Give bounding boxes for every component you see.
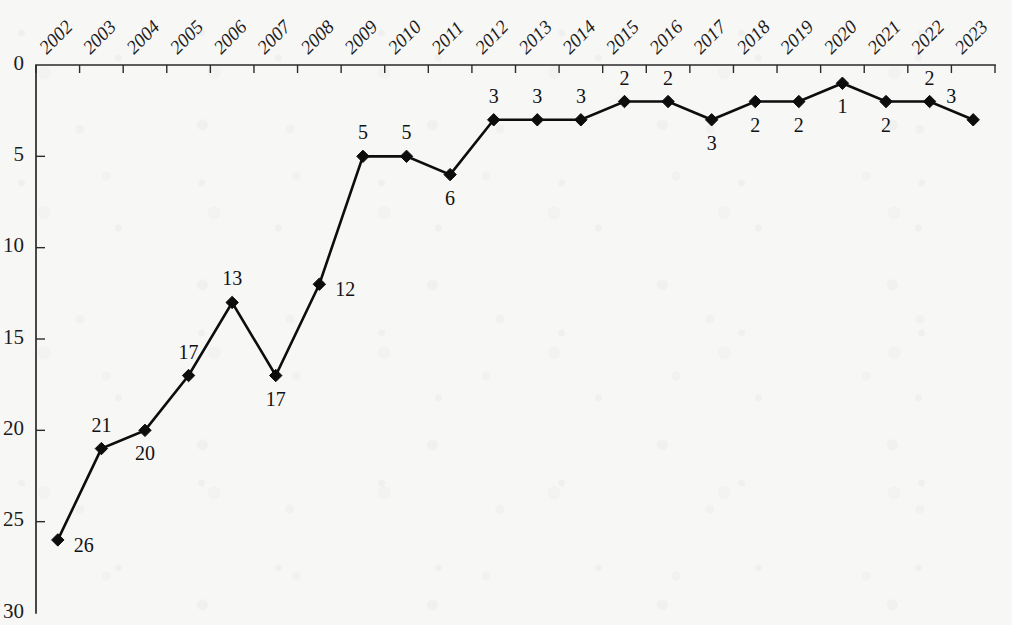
data-point-markers <box>52 77 980 546</box>
data-point-marker <box>662 95 674 107</box>
x-axis-tick-label: 2011 <box>427 17 468 58</box>
x-axis-tick-label: 2018 <box>732 16 774 58</box>
axis-frame <box>36 65 995 613</box>
data-point-value-label: 5 <box>358 121 368 143</box>
y-axis-tick-label: 30 <box>3 599 24 623</box>
data-point-value-labels: 26212017131712556333223221223 <box>74 67 956 556</box>
data-point-marker <box>52 534 64 546</box>
x-axis-tick-label: 2008 <box>296 16 338 58</box>
data-point-value-label: 17 <box>179 341 199 363</box>
x-axis-tick-label: 2023 <box>950 16 992 58</box>
data-point-marker <box>313 278 325 290</box>
x-axis-tick-label: 2007 <box>253 15 296 58</box>
data-point-value-label: 26 <box>74 534 94 556</box>
x-axis-tick-label: 2014 <box>558 16 600 58</box>
data-point-marker <box>705 114 717 126</box>
data-point-value-label: 5 <box>402 121 412 143</box>
x-axis-tick-label: 2009 <box>340 16 382 58</box>
data-point-marker <box>400 150 412 162</box>
x-axis-tick-label: 2002 <box>35 16 77 58</box>
data-point-value-label: 13 <box>222 267 242 289</box>
data-point-marker <box>575 114 587 126</box>
data-point-value-label: 3 <box>532 85 542 107</box>
x-axis-tick-label: 2005 <box>166 16 208 58</box>
x-axis-tick-label: 2003 <box>78 16 120 58</box>
data-point-value-label: 2 <box>663 67 673 89</box>
y-axis-tick-label: 5 <box>14 142 25 166</box>
data-point-value-label: 3 <box>946 85 956 107</box>
data-point-marker <box>793 95 805 107</box>
data-point-marker <box>618 95 630 107</box>
data-point-value-label: 3 <box>489 85 499 107</box>
data-point-marker <box>531 114 543 126</box>
data-point-value-label: 6 <box>445 187 455 209</box>
data-point-value-label: 3 <box>707 132 717 154</box>
x-axis-tick-label: 2022 <box>907 16 949 58</box>
y-axis-tick-label-group: 051015202530 <box>3 51 24 623</box>
x-axis-tick-label: 2006 <box>209 16 251 58</box>
data-point-marker <box>836 77 848 89</box>
data-point-marker <box>749 95 761 107</box>
x-axis-tick-label: 2004 <box>122 16 164 58</box>
data-point-value-label: 2 <box>794 114 804 136</box>
y-axis-tick-label: 25 <box>3 507 24 531</box>
x-axis-tick-label: 2020 <box>819 16 861 58</box>
data-point-marker <box>270 369 282 381</box>
x-axis-tick-marks <box>36 65 995 73</box>
x-axis-tick-label: 2021 <box>863 16 905 58</box>
y-axis-tick-marks <box>36 156 45 521</box>
data-point-value-label: 12 <box>335 278 355 300</box>
y-axis-tick-label: 0 <box>14 51 25 75</box>
data-point-marker <box>967 114 979 126</box>
data-point-value-label: 2 <box>925 67 935 89</box>
x-axis-tick-label: 2017 <box>689 15 732 58</box>
data-point-value-label: 1 <box>837 95 847 117</box>
data-point-marker <box>357 150 369 162</box>
x-axis-tick-label: 2019 <box>776 16 818 58</box>
x-axis-tick-label: 2016 <box>645 16 687 58</box>
data-point-value-label: 3 <box>576 85 586 107</box>
y-axis-tick-label: 15 <box>3 325 24 349</box>
data-point-value-label: 20 <box>135 442 155 464</box>
data-point-value-label: 21 <box>91 414 111 436</box>
x-axis-tick-label-group: 2002200320042005200620072008200920102011… <box>35 15 992 58</box>
chart-page: 2002200320042005200620072008200920102011… <box>0 0 1012 625</box>
x-axis-tick-label: 2012 <box>471 16 513 58</box>
data-point-marker <box>880 95 892 107</box>
data-point-marker <box>226 296 238 308</box>
data-point-value-label: 2 <box>750 114 760 136</box>
x-axis-tick-label: 2010 <box>384 16 426 58</box>
data-point-marker <box>95 442 107 454</box>
y-axis-tick-label: 10 <box>3 233 24 257</box>
y-axis-tick-label: 20 <box>3 416 24 440</box>
data-point-value-label: 2 <box>619 67 629 89</box>
line-chart: 2002200320042005200620072008200920102011… <box>0 0 1012 625</box>
data-point-value-label: 17 <box>266 388 286 410</box>
data-point-value-label: 2 <box>881 114 891 136</box>
x-axis-tick-label: 2013 <box>514 16 556 58</box>
x-axis-tick-label: 2015 <box>601 16 643 58</box>
data-point-marker <box>923 95 935 107</box>
series-line-path <box>58 83 973 540</box>
